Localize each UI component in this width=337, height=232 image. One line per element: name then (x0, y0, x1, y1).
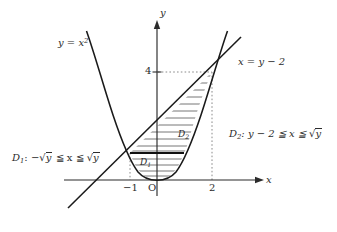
d1-sqrt-1: √y (39, 152, 52, 163)
line-label: x = y − 2 (238, 57, 285, 67)
d2-radicand-1: y (315, 128, 322, 139)
origin-label: O (148, 183, 156, 193)
diagram-svg (0, 0, 337, 232)
d2-desc-prefix: D (229, 128, 237, 139)
d1-desc-middle: ≦ x ≦ (52, 152, 86, 163)
tick-label-x-2: 2 (209, 183, 215, 193)
d1-desc-body: : − (24, 152, 39, 163)
d1-radicand-2: y (93, 152, 100, 163)
d1-sqrt-2: √y (87, 152, 100, 163)
parabola-label-exponent: 2 (84, 37, 88, 45)
region-label-d2: D2 (178, 130, 189, 140)
d2-desc-body: : y − 2 ≦ x ≦ (241, 128, 309, 139)
region-description-d1: D1: −√y ≦ x ≦ √y (12, 152, 100, 164)
tick-label-y-4: 4 (145, 66, 151, 76)
d1-radicand-1: y (46, 152, 53, 163)
x-axis-arrow (255, 177, 264, 183)
region-description-d2: D2: y − 2 ≦ x ≦ √y (229, 128, 322, 140)
tick-label-x-minus1: −1 (123, 183, 138, 193)
x-axis-label: x (266, 175, 272, 185)
parabola-label-base: y = x (58, 37, 84, 48)
region-label-d2-sub: 2 (185, 133, 189, 140)
figure-canvas: y x O −1 2 4 y = x2 x = y − 2 D1 D2 D1: … (0, 0, 337, 232)
y-axis-arrow (154, 20, 160, 29)
y-axis-label: y (160, 8, 166, 18)
region-label-d1: D1 (140, 158, 151, 168)
d1-desc-prefix: D (12, 152, 20, 163)
d2-sqrt-1: √y (309, 128, 322, 139)
region-label-d1-sub: 1 (147, 161, 151, 168)
parabola-label: y = x2 (58, 38, 88, 48)
